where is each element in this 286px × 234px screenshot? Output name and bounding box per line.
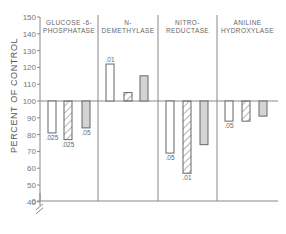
bar-hatched: [183, 101, 191, 173]
panel-label: DEMETHYLASE: [102, 27, 155, 34]
bar-hatched: [124, 93, 132, 101]
bar-shaded: [200, 101, 208, 145]
bars: .025.025.05.01.05.01.05: [46, 56, 267, 181]
significance-label: .05: [81, 129, 90, 136]
bar-chart: 0405060708090100110120130140150 GLUCOSE …: [0, 0, 286, 234]
y-tick-label: 130: [23, 47, 37, 56]
significance-label: .01: [105, 56, 114, 63]
y-tick-label: 50: [27, 181, 36, 190]
bar-hatched: [242, 101, 250, 121]
bar-shaded: [140, 76, 148, 101]
panel-label: N-: [124, 19, 132, 26]
y-tick-label: 80: [27, 131, 36, 140]
panel-label: HYDROXYLASE: [221, 27, 274, 34]
y-tick-label: 90: [27, 114, 36, 123]
bar-shaded: [82, 101, 90, 128]
y-tick-label: 140: [23, 30, 37, 39]
significance-label: .05: [224, 122, 233, 129]
y-tick-label: 120: [23, 63, 37, 72]
panel-label: ANILINE: [233, 19, 261, 26]
significance-label: .025: [46, 134, 59, 141]
bar-open: [225, 101, 233, 121]
panel-label: NITRO-: [175, 19, 200, 26]
y-tick-label: 70: [27, 147, 36, 156]
panel-label: GLUCOSE -6-: [46, 19, 92, 26]
y-axis-label: PERCENT OF CONTROL: [9, 38, 19, 153]
y-tick-label: 60: [27, 164, 36, 173]
panel-label: REDUCTASE: [166, 27, 209, 34]
significance-label: .05: [165, 154, 174, 161]
y-tick-label: 100: [23, 97, 37, 106]
y-tick-label: 40: [27, 198, 36, 207]
bar-open: [106, 64, 114, 101]
significance-label: .01: [182, 174, 191, 181]
significance-label: .025: [62, 141, 75, 148]
bar-open: [48, 101, 56, 133]
bar-hatched: [64, 101, 72, 140]
bar-shaded: [259, 101, 267, 116]
panel-label: PHOSPHATASE: [43, 27, 95, 34]
axes: 0405060708090100110120130140150: [23, 13, 278, 214]
y-tick-label: 110: [23, 80, 36, 89]
panels: GLUCOSE -6-PHOSPHATASEN-DEMETHYLASENITRO…: [43, 15, 274, 201]
y-tick-label: 150: [23, 13, 37, 22]
bar-open: [166, 101, 174, 153]
